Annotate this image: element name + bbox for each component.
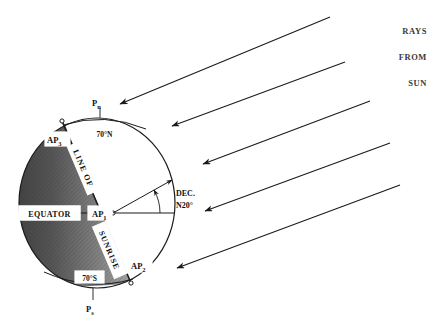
latitude-70s-text: 70°S xyxy=(82,274,97,283)
ap3-label: AP3 xyxy=(45,132,70,147)
ap1-label-base: AP xyxy=(92,209,103,219)
rays-caption-line-3: SUN xyxy=(408,78,427,88)
north-pole-label: Pn xyxy=(92,98,101,110)
ap2-label: AP2 xyxy=(128,258,152,273)
rays-caption-line-1: RAYS xyxy=(402,26,427,36)
declination-label-line-1: DEC. xyxy=(176,189,195,198)
ap1-label-sub: 1 xyxy=(103,214,106,221)
north-pole-label-sub: n xyxy=(97,103,101,110)
ap2-label-base: AP xyxy=(131,261,142,271)
sun-ray-5 xyxy=(177,185,400,268)
sun-ray-3 xyxy=(203,101,370,164)
latitude-70n-text: 70°N xyxy=(97,130,113,139)
declination-label: DEC. N20° xyxy=(176,189,195,210)
declination-label-line-2: N20° xyxy=(176,201,193,210)
sun-earth-declination-diagram: RAYS FROM SUN xyxy=(0,0,440,325)
latitude-70s-label: 70°S xyxy=(75,271,104,283)
south-pole-label-sub: s xyxy=(91,309,94,316)
ap3-point xyxy=(60,119,64,123)
rays-from-sun-caption: RAYS FROM SUN xyxy=(399,26,428,88)
south-pole-label: Ps xyxy=(86,304,94,316)
equator-label-text: EQUATOR xyxy=(28,210,71,219)
ap3-label-base: AP xyxy=(47,135,58,145)
globe-group: EQUATOR 70°N 70°S AP1 xyxy=(10,98,195,316)
ap2-label-sub: 2 xyxy=(142,266,145,273)
sun-ray-1 xyxy=(120,17,330,104)
equator-label: EQUATOR xyxy=(19,206,80,220)
diagram-canvas: RAYS FROM SUN xyxy=(0,0,440,325)
latitude-70n-label: 70°N xyxy=(90,127,119,139)
rays-caption-line-2: FROM xyxy=(399,52,427,62)
ap1-label: AP1 xyxy=(88,206,112,221)
ap2-point xyxy=(129,281,133,285)
